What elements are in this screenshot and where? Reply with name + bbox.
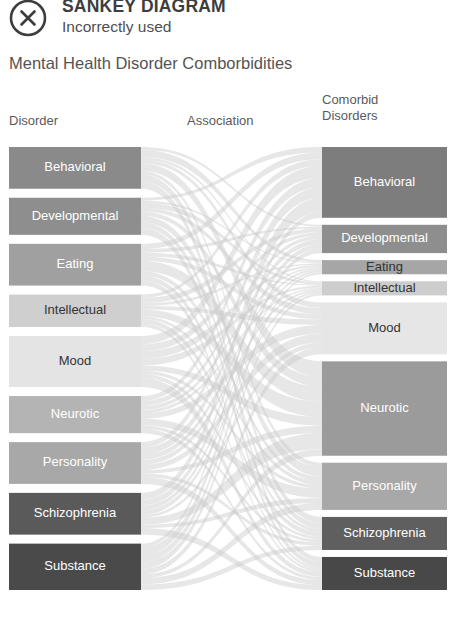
sankey-node-right-developmental[interactable] <box>322 225 447 253</box>
annotation-banner: SANKEY DIAGRAM Incorrectly used <box>0 0 461 42</box>
annotation-title: SANKEY DIAGRAM <box>62 0 226 17</box>
sankey-node-right-behavioral[interactable] <box>322 147 447 218</box>
column-header-association: Association <box>187 113 253 129</box>
sankey-nodes-left: BehavioralDevelopmentalEatingIntellectua… <box>9 147 141 590</box>
column-header-comorbid-line1: Comorbid <box>322 92 378 108</box>
sankey-diagram: BehavioralDevelopmentalEatingIntellectua… <box>0 143 461 593</box>
column-header-disorder: Disorder <box>9 113 58 129</box>
sankey-node-left-neurotic[interactable] <box>9 396 141 433</box>
column-header-comorbid-disorders: Comorbid Disorders <box>322 92 378 124</box>
sankey-node-right-neurotic[interactable] <box>322 361 447 455</box>
annotation-subtitle: Incorrectly used <box>62 18 171 36</box>
chart-title: Mental Health Disorder Comborbidities <box>9 54 292 73</box>
sankey-node-right-intellectual[interactable] <box>322 281 447 295</box>
sankey-node-left-schizophrenia[interactable] <box>9 493 141 535</box>
sankey-nodes-right: BehavioralDevelopmentalEatingIntellectua… <box>322 147 447 590</box>
sankey-node-right-personality[interactable] <box>322 463 447 510</box>
sankey-links <box>141 147 322 590</box>
sankey-node-left-intellectual[interactable] <box>9 295 141 327</box>
sankey-svg: BehavioralDevelopmentalEatingIntellectua… <box>0 143 461 593</box>
sankey-node-left-personality[interactable] <box>9 442 141 484</box>
column-header-comorbid-line2: Disorders <box>322 108 378 124</box>
sankey-node-left-behavioral[interactable] <box>9 147 141 189</box>
sankey-node-left-developmental[interactable] <box>9 198 141 235</box>
sankey-node-right-schizophrenia[interactable] <box>322 517 447 550</box>
sankey-node-right-substance[interactable] <box>322 557 447 590</box>
sankey-node-left-eating[interactable] <box>9 244 141 286</box>
sankey-node-left-mood[interactable] <box>9 336 141 387</box>
sankey-node-left-substance[interactable] <box>9 544 141 590</box>
sankey-node-right-mood[interactable] <box>322 302 447 354</box>
sankey-node-right-eating[interactable] <box>322 260 447 274</box>
circle-x-icon <box>8 0 48 38</box>
